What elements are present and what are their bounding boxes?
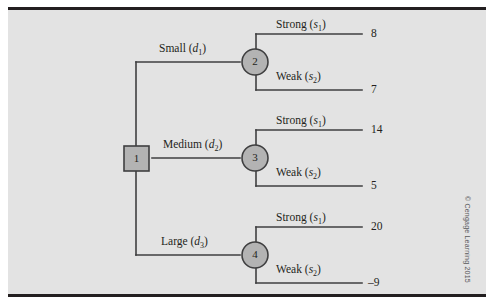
outcome-label-3-strong-text: Strong <box>276 114 307 126</box>
outcome-label-3-weak-subscript: 2 <box>313 172 317 181</box>
outcome-label-4-strong: Strong (s1) <box>276 211 326 226</box>
chance-node-4-label: 4 <box>252 248 258 260</box>
payoff-4-weak: –9 <box>368 276 380 288</box>
outcome-label-3-weak-text: Weak <box>276 166 302 178</box>
decision-tree-figure: 1 2 3 4 Small (d1) Medium (d2) Large (d3… <box>0 0 504 308</box>
branch-label-large-subscript: 3 <box>200 241 204 250</box>
outcome-label-3-strong: Strong (s1) <box>276 114 326 129</box>
payoff-3-strong: 14 <box>371 123 383 135</box>
decision-node-1-label: 1 <box>134 152 140 164</box>
outcome-label-4-strong-text: Strong <box>276 211 307 223</box>
outcome-label-2-strong-subscript: 1 <box>318 24 322 33</box>
chance-node-3-label: 3 <box>252 151 258 163</box>
tree-graphics: 1 2 3 4 <box>0 0 504 308</box>
outcome-label-2-strong-text: Strong <box>276 18 307 30</box>
branch-label-medium-subscript: 2 <box>214 144 218 153</box>
outcome-label-2-strong: Strong (s1) <box>276 18 326 33</box>
branch-label-large: Large (d3) <box>161 235 208 250</box>
payoff-4-strong: 20 <box>371 220 383 232</box>
outcome-label-4-weak-subscript: 2 <box>313 269 317 278</box>
chance-node-2-label: 2 <box>252 55 258 67</box>
branch-label-small-subscript: 1 <box>198 48 202 57</box>
outcome-label-2-weak-subscript: 2 <box>313 76 317 85</box>
branch-label-small-text: Small <box>159 42 186 54</box>
outcome-label-2-weak-text: Weak <box>276 70 302 82</box>
payoff-2-weak: 7 <box>371 83 377 95</box>
copyright-credit: © Cengage Learning 2015 <box>464 196 471 296</box>
branch-label-small: Small (d1) <box>159 42 206 57</box>
outcome-label-4-strong-subscript: 1 <box>318 217 322 226</box>
branch-label-large-text: Large <box>161 235 188 247</box>
outcome-label-3-strong-subscript: 1 <box>318 120 322 129</box>
outcome-label-4-weak: Weak (s2) <box>276 263 321 278</box>
outcome-label-3-weak: Weak (s2) <box>276 166 321 181</box>
outcome-label-2-weak: Weak (s2) <box>276 70 321 85</box>
payoff-2-strong: 8 <box>371 27 377 39</box>
payoff-3-weak: 5 <box>371 179 377 191</box>
outcome-label-4-weak-text: Weak <box>276 263 302 275</box>
branch-label-medium: Medium (d2) <box>163 138 222 153</box>
branch-label-medium-text: Medium <box>163 138 202 150</box>
